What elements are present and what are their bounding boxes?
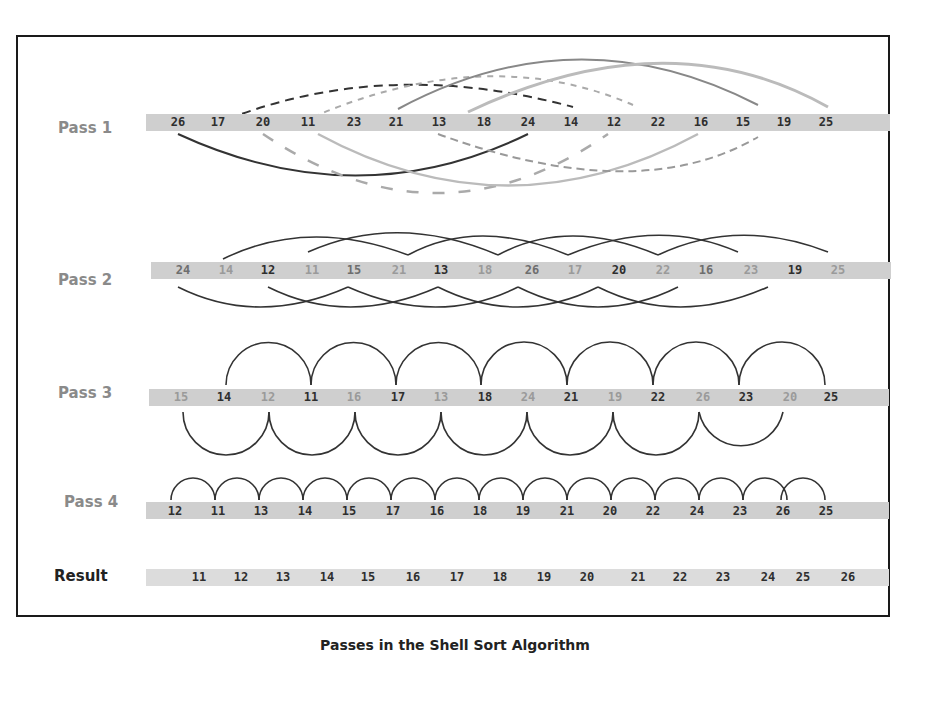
array-cell: 25 xyxy=(831,262,845,279)
array-cell: 15 xyxy=(342,503,356,520)
array-cell: 25 xyxy=(824,389,838,406)
array-cell: 11 xyxy=(192,569,206,586)
array-cell: 24 xyxy=(176,262,190,279)
array-cell: 20 xyxy=(580,569,594,586)
array-cell: 16 xyxy=(430,503,444,520)
pass4-arc xyxy=(523,478,567,500)
pass4-arc xyxy=(699,478,743,500)
array-cell: 18 xyxy=(493,569,507,586)
array-cell: 14 xyxy=(298,503,312,520)
pass4-arc xyxy=(303,478,347,500)
pass3-arc xyxy=(739,342,825,385)
array-cell: 19 xyxy=(608,389,622,406)
pass4-arc xyxy=(655,478,699,500)
pass-4-label: Pass 4 xyxy=(64,493,118,511)
pass3-arc xyxy=(355,412,441,455)
array-cell: 17 xyxy=(211,114,225,131)
array-cell: 23 xyxy=(744,262,758,279)
pass3-arc xyxy=(481,342,567,385)
pass3-arc xyxy=(396,343,481,386)
array-cell: 22 xyxy=(656,262,670,279)
array-cell: 21 xyxy=(389,114,403,131)
pass3-arc xyxy=(441,412,527,455)
pass-1-label: Pass 1 xyxy=(58,119,112,137)
array-cell: 16 xyxy=(406,569,420,586)
array-cell: 26 xyxy=(696,389,710,406)
pass2-arc xyxy=(348,287,518,307)
array-cell: 18 xyxy=(478,389,492,406)
pass3-arc xyxy=(653,342,739,385)
array-cell: 15 xyxy=(174,389,188,406)
array-cell: 14 xyxy=(219,262,233,279)
pass4-arc xyxy=(567,478,611,500)
array-cell: 15 xyxy=(361,569,375,586)
pass-3-label: Pass 3 xyxy=(58,384,112,402)
pass1-arc xyxy=(178,134,528,176)
pass2-arc xyxy=(408,236,568,255)
array-cell: 16 xyxy=(694,114,708,131)
array-cell: 23 xyxy=(347,114,361,131)
array-cell: 23 xyxy=(739,389,753,406)
array-cell: 19 xyxy=(788,262,802,279)
diagram-caption: Passes in the Shell Sort Algorithm xyxy=(18,637,892,653)
array-cell: 26 xyxy=(841,569,855,586)
pass2-arc xyxy=(268,287,438,307)
pass3-arc xyxy=(226,343,311,386)
array-cell: 12 xyxy=(168,503,182,520)
array-cell: 14 xyxy=(564,114,578,131)
array-cell: 26 xyxy=(776,503,790,520)
array-cell: 24 xyxy=(690,503,704,520)
pass2-arc xyxy=(223,237,408,259)
pass2-arc xyxy=(178,287,348,307)
array-cell: 25 xyxy=(819,503,833,520)
array-cell: 24 xyxy=(761,569,775,586)
array-cell: 17 xyxy=(568,262,582,279)
array-cell: 21 xyxy=(560,503,574,520)
array-cell: 21 xyxy=(392,262,406,279)
pass4-arc xyxy=(479,478,523,500)
array-cell: 12 xyxy=(607,114,621,131)
pass1-arc xyxy=(313,76,633,117)
pass3-arc xyxy=(699,412,783,446)
pass2-arc xyxy=(438,287,598,307)
pass2-arc xyxy=(568,235,738,255)
pass1-arc xyxy=(318,134,698,186)
array-cell: 20 xyxy=(783,389,797,406)
pass2-arc xyxy=(598,287,768,307)
array-cell: 15 xyxy=(347,262,361,279)
array-cell: 18 xyxy=(478,262,492,279)
pass1-arc xyxy=(398,59,758,109)
pass1-arc xyxy=(438,134,758,171)
array-cell: 19 xyxy=(537,569,551,586)
pass3-arc xyxy=(183,412,269,455)
array-cell: 16 xyxy=(347,389,361,406)
array-cell: 20 xyxy=(612,262,626,279)
array-cell: 25 xyxy=(796,569,810,586)
array-cell: 16 xyxy=(699,262,713,279)
pass3-arc xyxy=(613,412,699,455)
pass2-arc xyxy=(308,233,498,255)
array-cell: 23 xyxy=(733,503,747,520)
array-cell: 22 xyxy=(651,389,665,406)
array-cell: 22 xyxy=(651,114,665,131)
array-cell: 17 xyxy=(386,503,400,520)
array-cell: 19 xyxy=(777,114,791,131)
array-cell: 17 xyxy=(450,569,464,586)
array-cell: 18 xyxy=(477,114,491,131)
array-cell: 11 xyxy=(304,389,318,406)
pass3-arc xyxy=(269,412,355,455)
array-cell: 24 xyxy=(521,389,535,406)
pass4-arc xyxy=(347,478,391,500)
array-cell: 12 xyxy=(261,389,275,406)
array-cell: 20 xyxy=(603,503,617,520)
pass4-arc xyxy=(611,478,655,500)
pass1-arc xyxy=(468,63,828,112)
array-cell: 12 xyxy=(261,262,275,279)
array-cell: 22 xyxy=(673,569,687,586)
array-cell: 21 xyxy=(631,569,645,586)
array-cell: 14 xyxy=(217,389,231,406)
array-cell: 11 xyxy=(211,503,225,520)
array-cell: 24 xyxy=(521,114,535,131)
array-cell: 13 xyxy=(254,503,268,520)
pass4-arc xyxy=(781,478,825,500)
